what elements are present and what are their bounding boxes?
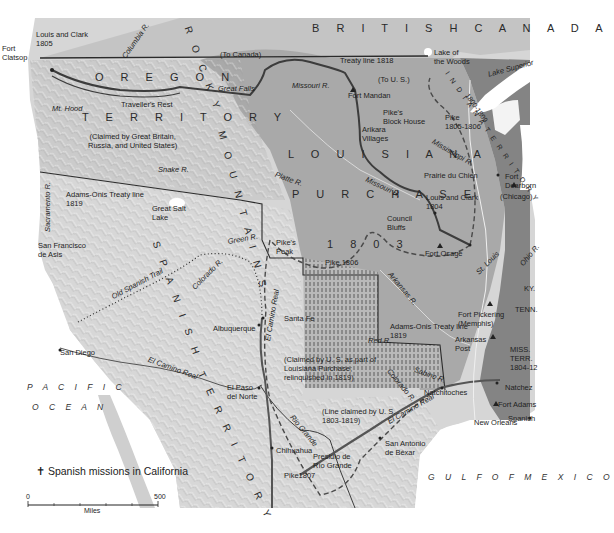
legend-label: Spanish missions in California: [48, 465, 188, 477]
label-british-canada: B R I T I S H C A N A D A: [312, 24, 609, 33]
place-label-lewis-clark-1804: Louis and Clark 1804: [426, 193, 478, 211]
place-label-fort-dearborn: Fort Dearborn: [505, 172, 536, 190]
label-gulf-of-mexico: G U L F O F M E X I C O: [428, 473, 614, 482]
place-label-travellers-rest: Traveller's Rest: [121, 100, 173, 109]
place-label-lake-of-woods: Lake of the Woods: [434, 48, 470, 66]
place-label-fort-adams: Fort Adams: [498, 400, 536, 409]
scale-unit: Miles: [84, 507, 100, 515]
scale-end: 500: [154, 493, 166, 501]
place-label-great-falls: Great Falls: [218, 84, 255, 93]
place-label-el-paso: El Paso del Norte: [227, 383, 257, 401]
place-label-arikara: Arikara Villages: [362, 125, 388, 143]
place-label-adams-onis-west: Adams-Onis Treaty line 1819: [66, 190, 144, 208]
place-label-to-canada: (To Canada): [220, 50, 261, 59]
place-label-pikes-peak: Pike's Peak: [276, 238, 296, 256]
place-label-prairie-du-chien: Prairie du Chien: [424, 171, 478, 180]
scale-start: 0: [26, 493, 30, 501]
place-label-snake-r: Snake R.: [158, 165, 189, 174]
place-label-great-salt-lake: Great Salt Lake: [152, 204, 186, 222]
cross-icon: ✝: [36, 465, 45, 477]
place-label-new-orleans: New Orleans: [474, 418, 517, 427]
place-label-mt-hood: Mt. Hood: [52, 104, 82, 113]
place-label-fort-clatsop: Fort Clatsop: [2, 44, 27, 62]
place-label-san-diego: San Diego: [60, 348, 95, 357]
place-label-san-antonio: San Antonio de Béxar: [385, 439, 425, 457]
place-label-albuquerque: Albuquerque: [213, 324, 256, 333]
legend-missions: ✝ Spanish missions in California: [36, 467, 188, 476]
place-label-missouri-r-north: Missouri R.: [292, 81, 330, 90]
label-pacific: P A C I F I C: [27, 383, 126, 392]
place-label-claimed-us: (Claimed by U. S. as part of Louisiana P…: [284, 355, 376, 382]
place-label-presidio: Presidio de Río Grande: [313, 452, 352, 470]
place-label-chihuahua: Chihuahua: [276, 446, 312, 455]
place-label-santa-fe: Santa Fe: [284, 314, 314, 323]
label-territory: T E R R I T O R Y: [82, 113, 288, 122]
place-label-pike-1805: Pike 1805-1806: [445, 113, 481, 131]
place-label-sacramento-r: Sacramento R.: [43, 182, 52, 232]
place-label-line-claimed: (Line claimed by U. S. 1803-1819): [322, 407, 395, 425]
place-label-to-us: (To U. S.): [378, 75, 410, 84]
label-oregon-claim: (Claimed by Great Britain, Russia, and U…: [88, 132, 177, 150]
place-label-lewis-clark-1805: Louis and Clark 1805: [36, 30, 88, 48]
place-label-pike-1807: Pike1807: [284, 471, 315, 480]
label-ocean: O C E A N: [32, 403, 107, 412]
label-oregon: O R E G O N: [95, 73, 236, 82]
place-label-ky: KY.: [524, 284, 535, 293]
place-label-tenn: TENN.: [515, 305, 538, 314]
place-label-red-r: Red R.: [368, 336, 391, 345]
place-label-pike-1806: Pike 1806: [325, 258, 358, 267]
place-label-fort-osage: Fort Osage: [425, 249, 463, 258]
place-label-fort-mandan: Fort Mandan: [348, 91, 391, 100]
place-label-council-bluffs: Council Bluffs: [387, 214, 412, 232]
place-label-natchez: Natchez: [505, 383, 533, 392]
place-label-pikes-block-house: Pike's Block House: [383, 108, 425, 126]
place-label-treaty-1818: Treaty line 1818: [340, 56, 394, 65]
place-label-san-francisco: San Francisco de Asis: [38, 241, 86, 259]
place-label-arkansas-post: Arkansas Post: [455, 335, 486, 353]
place-label-chicago: (Chicago): [500, 192, 533, 201]
label-year-1803: 1 8 0 3: [327, 240, 410, 249]
place-label-miss-terr: MISS. TERR. 1804-12: [510, 345, 538, 372]
